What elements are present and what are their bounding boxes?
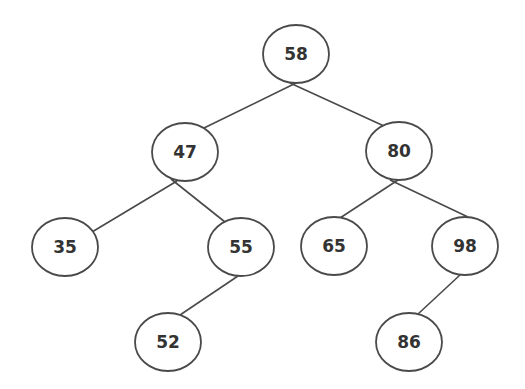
edge-n47-n35 — [92, 181, 177, 232]
node-label: 55 — [229, 237, 253, 257]
tree-node-52: 52 — [135, 313, 201, 371]
node-label: 52 — [156, 332, 180, 352]
tree-node-58: 58 — [263, 25, 329, 83]
tree-node-47: 47 — [152, 123, 218, 181]
node-label: 47 — [173, 142, 197, 162]
tree-node-35: 35 — [32, 218, 98, 276]
tree-node-65: 65 — [301, 217, 367, 275]
edge-n98-n86 — [418, 275, 460, 314]
edge-n80-n98 — [390, 180, 468, 217]
node-label: 80 — [387, 141, 411, 161]
node-label: 65 — [322, 236, 346, 256]
edge-n58-n47 — [204, 83, 296, 128]
tree-node-86: 86 — [376, 313, 442, 371]
tree-node-80: 80 — [366, 122, 432, 180]
edge-n47-n55 — [171, 179, 225, 222]
node-label: 86 — [397, 332, 421, 352]
node-label: 35 — [53, 237, 77, 257]
node-label: 58 — [284, 44, 308, 64]
binary-search-tree-diagram: 584780355565985286 — [0, 0, 525, 389]
edge-n58-n80 — [290, 83, 384, 126]
tree-node-98: 98 — [432, 217, 498, 275]
edge-n55-n52 — [180, 276, 238, 315]
tree-edges — [92, 83, 468, 315]
edge-n80-n65 — [340, 180, 398, 218]
tree-node-55: 55 — [208, 218, 274, 276]
node-label: 98 — [453, 236, 477, 256]
